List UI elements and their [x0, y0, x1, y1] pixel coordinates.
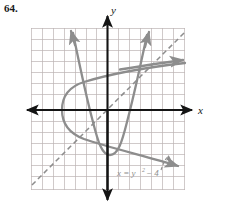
- x-axis-label: x: [197, 104, 203, 116]
- curve-label-lhs: x = y: [116, 168, 136, 178]
- y-axis-label: y: [110, 4, 116, 16]
- curve-y-equals-x-squared-minus-4: [71, 31, 149, 155]
- curve-x-equals-y-squared-minus-4: [62, 60, 185, 166]
- curve-label-rhs: − 4: [146, 168, 159, 178]
- graph-figure: x y x = y 2 − 4: [0, 0, 225, 209]
- curve-label-exponent: 2: [142, 167, 145, 173]
- coordinate-plane-svg: x y x = y 2 − 4: [0, 0, 225, 209]
